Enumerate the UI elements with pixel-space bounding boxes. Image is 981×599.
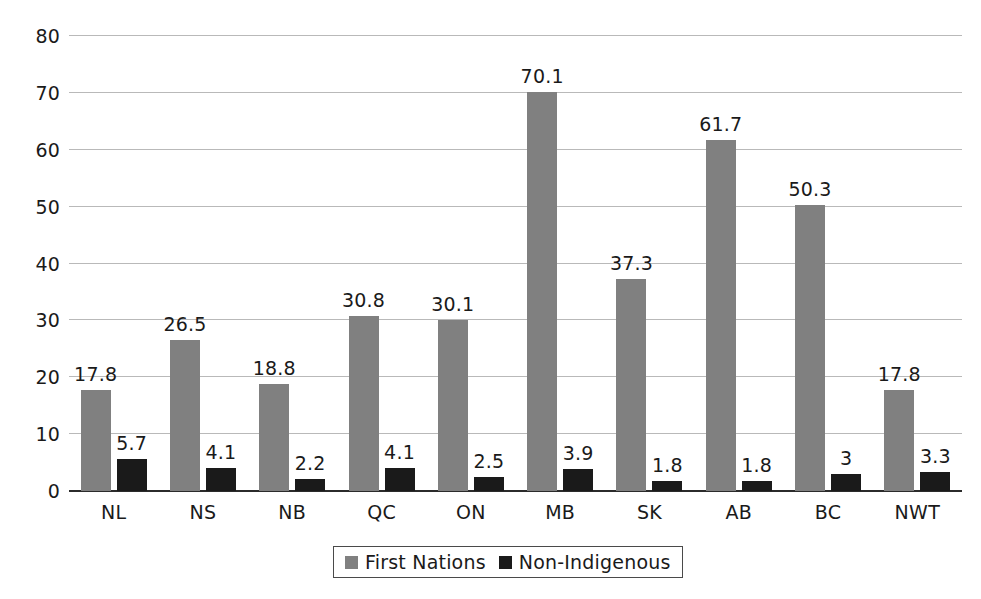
bar-value-label: 1.8 <box>637 456 697 475</box>
bar-nl-non-indigenous <box>117 459 147 491</box>
y-axis-tick-label: 0 <box>14 482 60 501</box>
bar-value-label: 2.2 <box>280 454 340 473</box>
x-axis-tick-label-ab: AB <box>694 503 783 522</box>
y-axis-tick-label: 30 <box>14 311 60 330</box>
bar-value-label: 2.5 <box>459 452 519 471</box>
bar-value-label: 18.8 <box>244 359 304 378</box>
bar-ns-first-nations <box>170 340 200 491</box>
bar-value-label: 70.1 <box>512 67 572 86</box>
bar-value-label: 26.5 <box>155 315 215 334</box>
x-axis-tick-label-mb: MB <box>516 503 605 522</box>
bar-value-label: 17.8 <box>869 365 929 384</box>
bar-group: 18.82.2 <box>248 36 337 491</box>
x-axis-tick-label-on: ON <box>426 503 515 522</box>
bar-group: 26.54.1 <box>158 36 247 491</box>
bar-nb-non-indigenous <box>295 479 325 492</box>
bar-qc-first-nations <box>349 316 379 491</box>
bar-ab-first-nations <box>706 140 736 491</box>
y-axis-tick-label: 40 <box>14 254 60 273</box>
bar-value-label: 50.3 <box>780 180 840 199</box>
bar-ab-non-indigenous <box>742 481 772 491</box>
bar-sk-non-indigenous <box>652 481 682 491</box>
y-axis-tick-label: 60 <box>14 140 60 159</box>
bar-group: 50.33 <box>783 36 872 491</box>
bar-value-label: 4.1 <box>370 443 430 462</box>
bar-nb-first-nations <box>259 384 289 491</box>
legend-swatch-icon <box>345 556 358 569</box>
x-axis-tick-label-nwt: NWT <box>873 503 962 522</box>
x-axis-tick-label-sk: SK <box>605 503 694 522</box>
bar-value-label: 4.1 <box>191 443 251 462</box>
legend-item-non-indigenous: Non-Indigenous <box>499 553 671 572</box>
bar-nwt-first-nations <box>884 390 914 491</box>
x-axis-tick-label-bc: BC <box>783 503 872 522</box>
bar-nwt-non-indigenous <box>920 472 950 491</box>
bar-value-label: 30.1 <box>423 295 483 314</box>
y-axis-tick-label: 10 <box>14 425 60 444</box>
bar-group: 30.84.1 <box>337 36 426 491</box>
bar-group: 30.12.5 <box>426 36 515 491</box>
y-axis-tick-label: 70 <box>14 83 60 102</box>
bar-value-label: 61.7 <box>691 115 751 134</box>
legend-swatch-icon <box>499 556 512 569</box>
bar-value-label: 1.8 <box>727 456 787 475</box>
x-axis-tick-label-nb: NB <box>248 503 337 522</box>
bar-group: 17.85.7 <box>69 36 158 491</box>
bar-value-label: 3.3 <box>905 447 965 466</box>
bar-group: 17.83.3 <box>873 36 962 491</box>
legend-label: First Nations <box>365 553 486 572</box>
y-axis: 01020304050607080 <box>0 36 60 491</box>
bar-group: 70.13.9 <box>516 36 605 491</box>
legend-label: Non-Indigenous <box>519 553 671 572</box>
x-axis-tick-label-nl: NL <box>69 503 158 522</box>
bar-value-label: 3.9 <box>548 444 608 463</box>
bar-value-label: 30.8 <box>334 291 394 310</box>
x-axis-tick-label-qc: QC <box>337 503 426 522</box>
bar-on-non-indigenous <box>474 477 504 491</box>
bar-chart: 01020304050607080 17.85.726.54.118.82.23… <box>0 0 981 599</box>
y-axis-tick-label: 50 <box>14 197 60 216</box>
legend-item-first-nations: First Nations <box>345 553 486 572</box>
bar-value-label: 3 <box>816 449 876 468</box>
bar-value-label: 37.3 <box>601 254 661 273</box>
bar-mb-first-nations <box>527 92 557 491</box>
chart-legend: First NationsNon-Indigenous <box>333 546 683 578</box>
bar-ns-non-indigenous <box>206 468 236 491</box>
bar-group: 37.31.8 <box>605 36 694 491</box>
x-axis-tick-label-ns: NS <box>158 503 247 522</box>
plot-area: 17.85.726.54.118.82.230.84.130.12.570.13… <box>69 36 962 491</box>
bar-mb-non-indigenous <box>563 469 593 491</box>
y-axis-tick-label: 80 <box>14 27 60 46</box>
bar-value-label: 17.8 <box>66 365 126 384</box>
y-axis-tick-label: 20 <box>14 368 60 387</box>
bar-group: 61.71.8 <box>694 36 783 491</box>
bar-qc-non-indigenous <box>385 468 415 491</box>
bar-bc-non-indigenous <box>831 474 861 491</box>
bar-value-label: 5.7 <box>102 434 162 453</box>
